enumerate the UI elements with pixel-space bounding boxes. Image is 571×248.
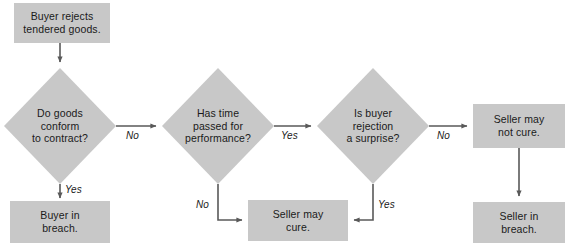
node-buyer-rejects[interactable]: Buyer rejects tendered goods.: [14, 3, 110, 43]
connector-surprise-yes: [354, 184, 373, 220]
edge-label-conform-yes: Yes: [65, 184, 82, 195]
edge-label-conform-no: No: [126, 130, 139, 141]
edge-label-time-yes: Yes: [281, 130, 298, 141]
node-label-seller-may-not-cure: Seller may not cure.: [494, 113, 545, 138]
edge-label-surprise-yes: Yes: [378, 199, 395, 210]
node-label-rejection-surprise: Is buyer rejection a surprise?: [346, 107, 399, 145]
node-seller-may-not-cure[interactable]: Seller may not cure.: [473, 104, 565, 148]
node-rejection-surprise[interactable]: Is buyer rejection a surprise?: [323, 106, 423, 146]
node-seller-may-cure[interactable]: Seller may cure.: [248, 200, 348, 241]
connector-time-no: [218, 184, 242, 220]
node-seller-in-breach[interactable]: Seller in breach.: [473, 202, 565, 243]
flowchart-canvas: Buyer rejects tendered goods. Do goods c…: [0, 0, 571, 248]
edge-label-surprise-no: No: [437, 130, 450, 141]
edge-label-time-no: No: [196, 199, 209, 210]
node-time-passed[interactable]: Has time passed for performance?: [166, 106, 270, 146]
node-buyer-in-breach[interactable]: Buyer in breach.: [10, 201, 110, 243]
node-label-buyer-rejects: Buyer rejects tendered goods.: [23, 10, 100, 35]
node-label-seller-may-cure: Seller may cure.: [273, 208, 324, 233]
node-label-buyer-in-breach: Buyer in breach.: [40, 209, 79, 234]
node-label-time-passed: Has time passed for performance?: [185, 107, 251, 145]
node-label-seller-in-breach: Seller in breach.: [500, 210, 539, 235]
node-label-goods-conform: Do goods conform to contract?: [32, 107, 88, 145]
node-goods-conform[interactable]: Do goods conform to contract?: [10, 106, 110, 146]
